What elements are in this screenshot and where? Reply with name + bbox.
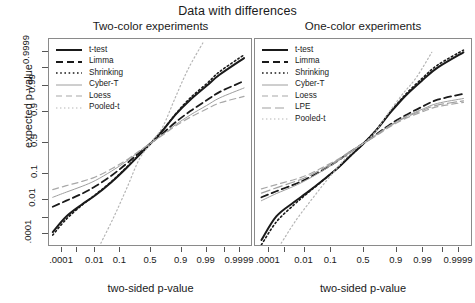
x-axis-label-left: two-sided p-value [48,282,253,294]
x-tick-label: 0.99 [402,254,442,265]
legend-item[interactable]: Pooled-t [262,113,329,125]
y-tick-label: 0.9 [0,104,40,115]
legend-item[interactable]: Loess [262,90,329,102]
legend-item[interactable]: t-test [56,44,123,56]
x-tick-mark-0 [76,247,77,252]
x-tick-mark-0 [150,247,151,252]
x-tick-mark-0 [61,247,62,252]
legend-item[interactable]: t-test [262,44,329,56]
x-tick-mark-0 [119,247,120,252]
legend-swatch-icon [262,69,288,76]
x-tick-mark-1 [363,247,364,252]
legend-item[interactable]: Pooled-t [56,102,123,114]
x-tick-mark-1 [396,247,397,252]
x-tick-mark-1 [284,247,285,252]
x-tick-mark-0 [224,247,225,252]
legend-item-label: t-test [295,46,313,54]
legend-item-label: Pooled-t [89,103,120,111]
legend-left: t-testLimmaShrinkingCyber-TLoessPooled-t [56,44,123,113]
legend-swatch-icon [56,58,82,65]
legend-item-label: Loess [295,92,317,100]
legend-swatch-icon [56,81,82,88]
y-tick-label: 0.01 [0,192,40,203]
x-tick-mark-0 [239,247,240,252]
y-tick-label: 0.1 [0,166,40,177]
y-tick-label: 0.99 [0,78,40,89]
x-axis-label-right: two-sided p-value [252,282,474,294]
legend-item[interactable]: Cyber-T [56,79,123,91]
legend-item[interactable]: Shrinking [262,67,329,79]
panel-title-left: Two-color experiments [48,20,253,32]
y-tick-label: 0.9999 [0,44,40,55]
legend-item-label: Limma [295,57,320,65]
legend-swatch-icon [262,46,288,53]
x-tick-label: 0.9999 [438,254,475,265]
panel-title-right: One-color experiments [252,20,474,32]
legend-swatch-icon [56,69,82,76]
chart-figure: Data with differences Two-color experime… [0,0,475,303]
x-tick-mark-1 [442,247,443,252]
legend-swatch-icon [56,92,82,99]
x-tick-mark-0 [206,247,207,252]
legend-right: t-testLimmaShrinkingCyber-TLoessLPEPoole… [262,44,329,125]
x-tick-mark-1 [330,247,331,252]
legend-item[interactable]: Loess [56,90,123,102]
legend-item[interactable]: Limma [262,56,329,68]
x-tick-label: .0001 [248,254,288,265]
y-tick-label: 0.5 [0,135,40,146]
legend-swatch-icon [262,81,288,88]
legend-item-label: Pooled-t [295,115,326,123]
x-tick-mark-0 [94,247,95,252]
legend-item[interactable]: Shrinking [56,67,123,79]
x-tick-mark-1 [422,247,423,252]
x-tick-mark-1 [268,247,269,252]
legend-swatch-icon [262,92,288,99]
legend-swatch-icon [262,104,288,111]
legend-item-label: Loess [89,92,111,100]
x-tick-mark-1 [304,247,305,252]
legend-swatch-icon [56,104,82,111]
legend-swatch-icon [56,46,82,53]
legend-item-label: LPE [295,103,310,111]
legend-swatch-icon [262,115,288,122]
y-tick-label: .0001 [0,226,40,237]
legend-item-label: Cyber-T [295,80,325,88]
legend-item[interactable]: LPE [262,102,329,114]
legend-item[interactable]: Cyber-T [262,79,329,91]
legend-item[interactable]: Limma [56,56,123,68]
x-tick-mark-1 [458,247,459,252]
page-title: Data with differences [0,4,475,18]
legend-swatch-icon [262,58,288,65]
legend-item-label: Cyber-T [89,80,119,88]
legend-item-label: Limma [89,57,114,65]
legend-item-label: Shrinking [295,69,329,77]
x-tick-mark-0 [181,247,182,252]
legend-item-label: Shrinking [89,69,123,77]
legend-item-label: t-test [89,46,107,54]
